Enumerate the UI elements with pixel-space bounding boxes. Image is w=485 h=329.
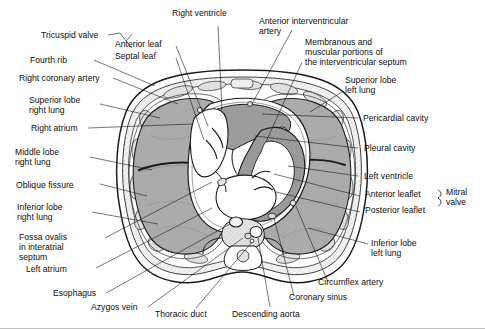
label-mitral-valve-line2: valve — [446, 198, 466, 208]
label-coronary-sinus: Coronary sinus — [289, 293, 347, 303]
label-fourth-rib: Fourth rib — [30, 56, 67, 66]
label-pleural-cavity: Pleural cavity — [364, 144, 415, 154]
label-anterior-leaf: Anterior leaf — [115, 40, 162, 50]
descending-aorta-lumen — [250, 227, 262, 238]
label-descending-aorta: Descending aorta — [232, 310, 300, 320]
label-fossa-ovalis-line3: septum — [19, 253, 47, 263]
label-inferior-lobe-right-lung-line2: right lung — [17, 213, 53, 223]
label-left-ventricle: Left ventricle — [364, 172, 413, 182]
label-azygos-vein: Azygos vein — [91, 303, 138, 313]
label-superior-lobe-left-lung-line2: left lung — [345, 86, 375, 96]
label-interventricular-septum-line3: the interventricular septum — [305, 58, 407, 68]
label-oblique-fissure: Oblique fissure — [16, 181, 74, 191]
label-superior-lobe-right-lung-line2: right lung — [29, 106, 65, 116]
label-anterior-interventricular-artery-line2: artery — [259, 27, 281, 37]
label-left-atrium: Left atrium — [26, 265, 67, 275]
circumflex-artery-lumen — [290, 200, 296, 206]
label-inferior-lobe-left-lung-line2: left lung — [371, 249, 401, 259]
anterior-interventricular-artery-lumen — [248, 102, 253, 107]
azygos-vein-lumen — [245, 233, 251, 239]
label-pericardial-cavity: Pericardial cavity — [363, 114, 428, 124]
label-right-ventricle: Right ventricle — [172, 9, 227, 19]
label-right-atrium: Right atrium — [31, 124, 78, 134]
label-middle-lobe-right-lung-line2: right lung — [15, 158, 51, 168]
figure-page: Tricuspid valve Fourth rib Right coronar… — [0, 0, 485, 329]
label-septal-leaf: Septal leaf — [115, 52, 156, 62]
coronary-sinus-lumen — [268, 213, 276, 219]
label-anterior-leaflet: Anterior leaflet — [365, 190, 421, 200]
spinal-cord — [237, 250, 249, 262]
label-posterior-leaflet: Posterior leaflet — [365, 206, 425, 216]
label-circumflex-artery: Circumflex artery — [318, 278, 383, 288]
label-thoracic-duct: Thoracic duct — [155, 310, 207, 320]
label-tricuspid-valve: Tricuspid valve — [41, 31, 98, 41]
label-right-coronary-artery: Right coronary artery — [19, 74, 100, 84]
esophagus-lumen — [230, 217, 243, 227]
thorax-cross-section-illustration — [0, 0, 485, 329]
label-esophagus: Esophagus — [53, 289, 96, 299]
mitral-valve-brace — [438, 190, 441, 206]
